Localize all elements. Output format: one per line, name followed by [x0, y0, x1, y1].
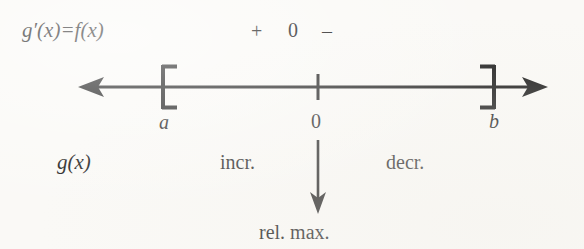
behavior-decreasing: decr. [386, 152, 424, 172]
conclusion-label: rel. max. [259, 222, 330, 242]
behavior-increasing: incr. [220, 152, 255, 172]
arrow-down-icon [310, 140, 326, 214]
function-label: g(x) [57, 152, 91, 173]
axis-label-a: a [159, 112, 169, 132]
sign-chart-figure: g′(x)=f(x) + 0 – a 0 [0, 0, 584, 249]
axis-label-zero: 0 [311, 111, 321, 131]
axis-label-b: b [489, 111, 499, 131]
